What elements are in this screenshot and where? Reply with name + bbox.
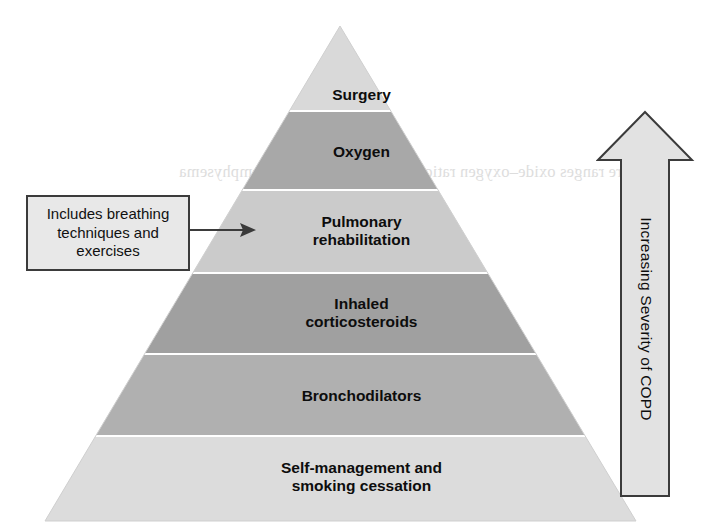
increasing-severity-arrow-icon: [596, 108, 696, 500]
callout-box: Includes breathing techniques and exerci…: [26, 195, 190, 271]
figure-canvas: Pressure ranges oxide–oxygen ratio durin…: [0, 0, 723, 522]
callout-arrow-icon: [188, 212, 260, 248]
pyramid-layer-surgery: [0, 26, 723, 110]
callout-text: Includes breathing techniques and exerci…: [47, 205, 170, 261]
